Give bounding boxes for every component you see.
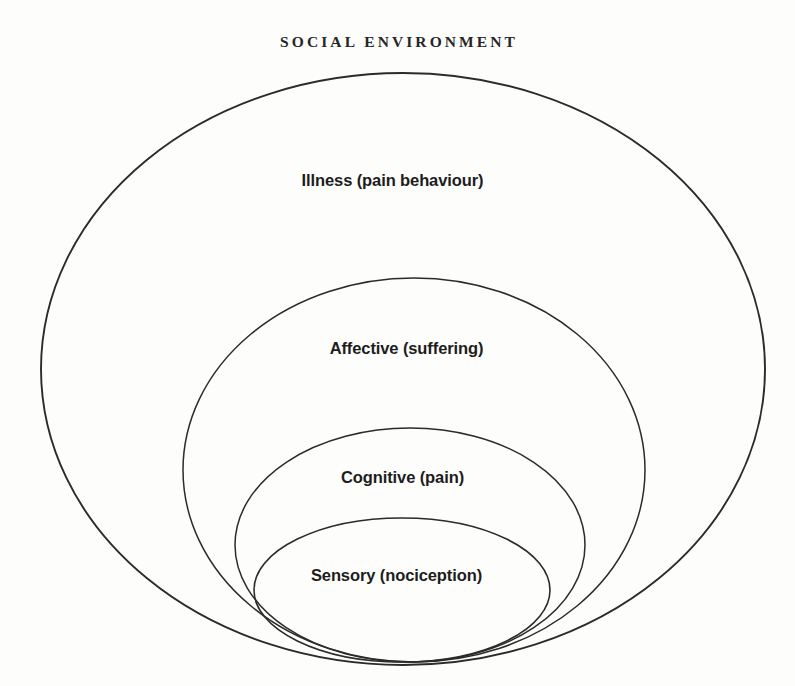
ring-label-cognitive: Cognitive (pain) <box>5 468 795 487</box>
pain-model-figure: SOCIAL ENVIRONMENT Illness (pain behavio… <box>0 0 795 686</box>
ring-label-illness: Illness (pain behaviour) <box>0 171 790 190</box>
ring-label-sensory: Sensory (nociception) <box>0 566 794 585</box>
ring-label-affective: Affective (suffering) <box>9 339 795 358</box>
ring-outline-sensory <box>254 518 550 662</box>
